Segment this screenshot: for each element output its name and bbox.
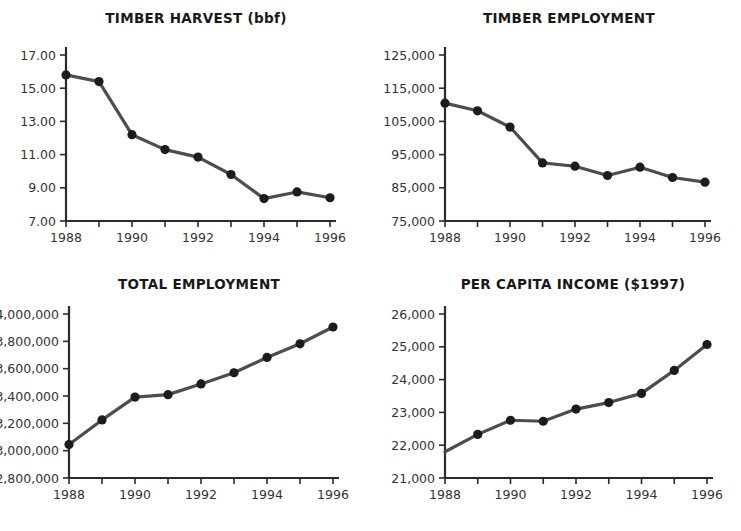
- data-point-marker: [668, 173, 677, 182]
- chart-plot-area: 21,00022,00023,00024,00025,00026,0001988…: [371, 266, 741, 531]
- x-tick-label: 1996: [317, 487, 349, 502]
- series-line: [445, 345, 707, 452]
- y-tick-label: 125,000: [383, 48, 435, 63]
- data-point-marker: [637, 389, 646, 398]
- x-tick-label: 1992: [182, 230, 214, 245]
- data-point-marker: [325, 193, 334, 202]
- data-point-marker: [94, 77, 103, 86]
- y-tick-label: 21,000: [391, 471, 435, 486]
- y-tick-label: 3,600,000: [0, 361, 59, 376]
- x-tick-label: 1994: [624, 230, 656, 245]
- data-point-marker: [635, 163, 644, 172]
- y-tick-label: 25,000: [391, 339, 435, 354]
- data-point-marker: [570, 162, 579, 171]
- data-point-marker: [196, 379, 205, 388]
- x-tick-label: 1988: [429, 487, 461, 502]
- data-point-marker: [604, 398, 613, 407]
- data-point-marker: [295, 339, 304, 348]
- chart-panel-total-employment: TOTAL EMPLOYMENT 2,800,0003,000,0003,200…: [0, 266, 370, 531]
- x-tick-label: 1994: [626, 487, 658, 502]
- data-point-marker: [64, 440, 73, 449]
- data-point-marker: [505, 122, 514, 131]
- y-tick-label: 85,000: [391, 180, 435, 195]
- x-tick-label: 1994: [248, 230, 280, 245]
- data-point-marker: [226, 170, 235, 179]
- chart-plot-area: 75,00085,00095,000105,000115,000125,0001…: [371, 0, 741, 265]
- x-tick-label: 1996: [314, 230, 346, 245]
- data-point-marker: [259, 194, 268, 203]
- y-tick-label: 4,000,000: [0, 307, 59, 322]
- x-tick-label: 1990: [119, 487, 151, 502]
- x-tick-label: 1990: [495, 487, 527, 502]
- data-point-marker: [670, 366, 679, 375]
- x-tick-label: 1990: [116, 230, 148, 245]
- data-point-marker: [328, 322, 337, 331]
- chart-plot-area: 7.009.0011.0013.0015.0017.00198819901992…: [0, 0, 370, 265]
- data-point-marker: [700, 178, 709, 187]
- y-tick-label: 26,000: [391, 307, 435, 322]
- data-point-marker: [571, 405, 580, 414]
- data-point-marker: [130, 392, 139, 401]
- y-tick-label: 2,800,000: [0, 471, 59, 486]
- data-point-marker: [506, 416, 515, 425]
- data-point-marker: [193, 152, 202, 161]
- y-tick-label: 24,000: [391, 372, 435, 387]
- y-tick-label: 105,000: [383, 114, 435, 129]
- chart-panel-timber-harvest: TIMBER HARVEST (bbf) 7.009.0011.0013.001…: [0, 0, 370, 265]
- figure-canvas: TIMBER HARVEST (bbf) 7.009.0011.0013.001…: [0, 0, 741, 531]
- data-point-marker: [160, 145, 169, 154]
- x-tick-label: 1988: [429, 230, 461, 245]
- data-point-marker: [61, 70, 70, 79]
- y-tick-label: 17.00: [20, 48, 56, 63]
- x-tick-label: 1992: [185, 487, 217, 502]
- data-point-marker: [127, 130, 136, 139]
- x-tick-label: 1996: [689, 230, 721, 245]
- y-tick-label: 9.00: [28, 180, 56, 195]
- x-tick-label: 1988: [53, 487, 85, 502]
- y-tick-label: 3,400,000: [0, 389, 59, 404]
- y-tick-label: 115,000: [383, 81, 435, 96]
- x-tick-label: 1992: [560, 487, 592, 502]
- data-point-marker: [538, 158, 547, 167]
- data-point-marker: [473, 430, 482, 439]
- y-tick-label: 13.00: [20, 114, 56, 129]
- y-tick-label: 15.00: [20, 81, 56, 96]
- x-tick-label: 1992: [559, 230, 591, 245]
- y-tick-label: 3,200,000: [0, 416, 59, 431]
- x-tick-label: 1994: [251, 487, 283, 502]
- data-point-marker: [473, 106, 482, 115]
- x-tick-label: 1988: [50, 230, 82, 245]
- y-tick-label: 23,000: [391, 405, 435, 420]
- data-point-marker: [539, 417, 548, 426]
- data-point-marker: [97, 415, 106, 424]
- y-tick-label: 11.00: [20, 147, 56, 162]
- y-tick-label: 7.00: [28, 214, 56, 229]
- chart-panel-timber-employment: TIMBER EMPLOYMENT 75,00085,00095,000105,…: [371, 0, 741, 265]
- chart-panel-per-capita-income: PER CAPITA INCOME ($1997) 21,00022,00023…: [371, 266, 741, 531]
- data-point-marker: [262, 353, 271, 362]
- chart-plot-area: 2,800,0003,000,0003,200,0003,400,0003,60…: [0, 266, 370, 531]
- data-point-marker: [603, 171, 612, 180]
- x-tick-label: 1990: [494, 230, 526, 245]
- x-tick-label: 1996: [691, 487, 723, 502]
- series-line: [66, 75, 330, 199]
- y-tick-label: 75,000: [391, 214, 435, 229]
- y-tick-label: 22,000: [391, 438, 435, 453]
- data-point-marker: [702, 340, 711, 349]
- y-tick-label: 3,000,000: [0, 443, 59, 458]
- data-point-marker: [229, 368, 238, 377]
- data-point-marker: [292, 187, 301, 196]
- data-point-marker: [440, 99, 449, 108]
- data-point-marker: [163, 390, 172, 399]
- y-tick-label: 95,000: [391, 147, 435, 162]
- y-tick-label: 3,800,000: [0, 334, 59, 349]
